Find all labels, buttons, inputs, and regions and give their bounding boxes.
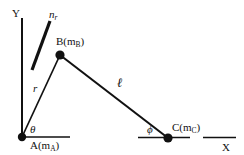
joint-node-C: [163, 133, 172, 142]
segment-label-r: r: [33, 83, 37, 94]
joint-node-A: [18, 133, 26, 141]
point-label-C: C(mC): [172, 122, 200, 134]
point-label-A: A(mA): [30, 140, 59, 152]
joint-node-B: [55, 50, 64, 59]
linkage-diagram-figure: Y X nr B(mB) A(mA) C(mC) r ℓ θ ϕ: [0, 0, 244, 155]
point-label-A-main: A(m: [30, 139, 50, 151]
angle-label-theta: θ: [30, 124, 35, 135]
point-label-B: B(mB): [56, 36, 84, 48]
n-r-vector-label: nr: [49, 9, 57, 21]
n-r-vector-line: [32, 21, 50, 70]
x-axis-label: X: [222, 142, 230, 153]
n-r-vector-label-sub: r: [55, 13, 58, 22]
link-r-line: [22, 55, 60, 137]
point-label-B-close: ): [81, 35, 85, 47]
point-label-C-main: C(m: [172, 121, 192, 133]
point-label-B-main: B(m: [56, 35, 76, 47]
angle-label-phi: ϕ: [147, 124, 153, 135]
point-label-A-close: ): [56, 139, 60, 151]
y-axis-label: Y: [12, 8, 20, 19]
segment-label-ell: ℓ: [117, 76, 122, 89]
point-label-C-close: ): [197, 121, 201, 133]
